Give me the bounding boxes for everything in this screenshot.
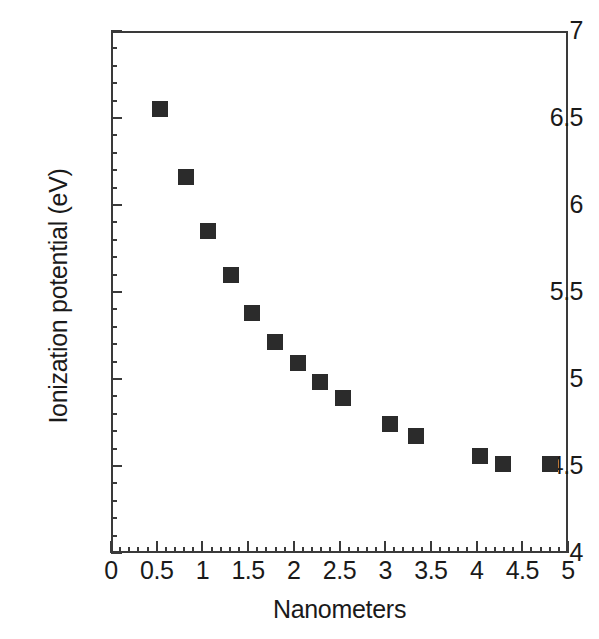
data-point-marker (244, 305, 260, 321)
data-point-marker (152, 101, 168, 117)
x-axis-title: Nanometers (111, 595, 568, 623)
scatter-data-layer (111, 31, 568, 553)
data-point-marker (223, 267, 239, 283)
y-axis-title: Ionization potential (eV) (44, 116, 72, 476)
data-point-marker (290, 355, 306, 371)
data-point-marker (542, 456, 558, 472)
data-point-marker (178, 169, 194, 185)
data-point-marker (200, 223, 216, 239)
caption-fragment (0, 625, 599, 639)
data-point-marker (472, 448, 488, 464)
data-point-marker (335, 390, 351, 406)
x-axis-tick-label: 5 (528, 558, 599, 583)
ionization-potential-scatter-figure: 44.555.566.5700.511.522.533.544.55 Nanom… (0, 0, 599, 639)
data-point-marker (312, 374, 328, 390)
data-point-marker (382, 416, 398, 432)
data-point-marker (495, 456, 511, 472)
data-point-marker (408, 428, 424, 444)
data-point-marker (267, 334, 283, 350)
